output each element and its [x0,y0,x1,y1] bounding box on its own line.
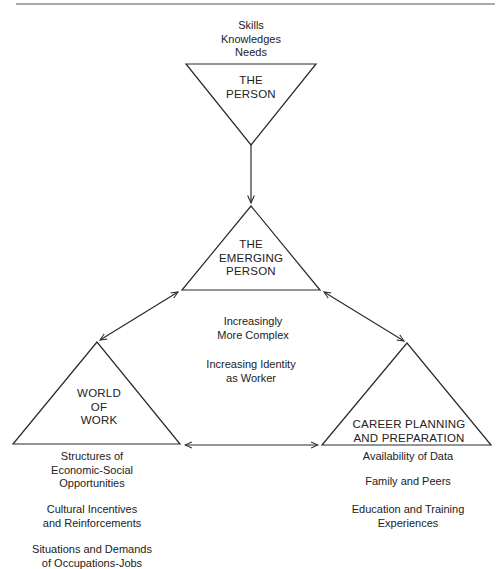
career-development-diagram: Skills Knowledges Needs THE PERSON THE E… [0,0,503,569]
arrow-emerging-career [324,292,404,341]
career-factor-data: Availability of Data [363,450,453,464]
world-factor-structures: Structures of Economic-Social Opportunit… [51,450,133,491]
attribute-needs: Needs [221,46,281,60]
person-attributes: Skills Knowledges Needs [221,19,281,60]
world-factor-cultural: Cultural Incentives and Reinforcements [43,503,141,530]
note-identity-as-worker: Increasing Identity as Worker [206,358,295,385]
emerging-person-title: THE EMERGING PERSON [219,238,283,279]
arrow-emerging-world [100,292,178,340]
career-factor-family: Family and Peers [365,475,451,489]
world-of-work-title: WORLD OF WORK [77,387,121,428]
world-factor-situations: Situations and Demands of Occupations-Jo… [32,543,152,569]
person-title: THE PERSON [226,74,276,101]
career-factor-education: Education and Training Experiences [352,503,465,530]
note-increasingly-complex: Increasingly More Complex [217,315,289,342]
attribute-skills: Skills [221,19,281,33]
career-planning-title: CAREER PLANNING AND PREPARATION [353,418,466,445]
attribute-knowledges: Knowledges [221,33,281,47]
